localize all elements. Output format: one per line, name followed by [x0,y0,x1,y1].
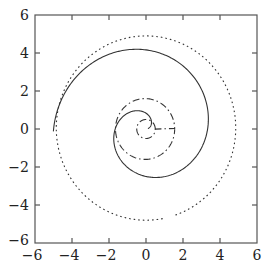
y-tick-label: −2 [8,159,29,175]
x-tick-label: 6 [253,247,262,263]
x-tick-label: 2 [179,247,188,263]
x-tick-label: −2 [96,247,117,263]
y-tick-label: −6 [8,232,29,248]
y-tick-label: −4 [8,197,29,213]
dotted-circle-curve [56,36,235,220]
x-tick-label: −6 [22,247,43,263]
y-tick-labels: −6−4−20246 [8,7,29,248]
y-tick-label: 6 [20,7,29,23]
y-tick-label: 2 [20,83,29,99]
x-tick-label: −4 [59,247,80,263]
axes-frame [35,15,257,243]
solid-spiral-curve [53,49,208,177]
plot-curves [53,36,235,220]
x-tick-labels: −6−4−20246 [22,247,262,263]
x-tick-label: 0 [142,247,151,263]
x-tick-label: 4 [216,247,225,263]
y-tick-label: 4 [20,45,29,61]
axis-ticks [35,15,257,243]
spiral-chart: −6−4−20246 −6−4−20246 [0,0,274,269]
dashdot-spiral-curve [115,99,174,160]
y-tick-label: 0 [20,121,29,137]
